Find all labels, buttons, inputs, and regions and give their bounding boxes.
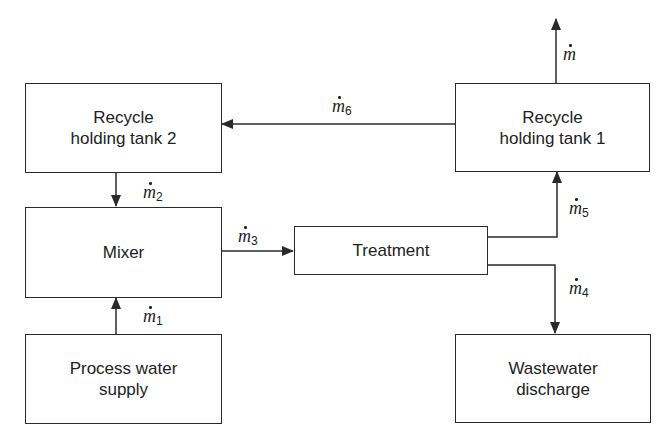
treatment-label: Treatment [353,240,430,261]
mixer-box: Mixer [25,207,222,298]
flow-symbol: m [569,278,582,299]
flow-label-m4: m4 [569,278,589,300]
recycle-holding-tank-2-box: Recycle holding tank 2 [25,83,222,173]
flow-subscript: 3 [251,234,258,248]
recycle-tank-1-label-line1: Recycle [500,107,606,128]
flow-label-m2: m2 [143,182,163,204]
treatment-box: Treatment [294,226,488,275]
process-water-label-line2: supply [70,379,178,400]
flow-arrow-m5 [487,172,557,237]
flow-subscript: 1 [156,314,163,328]
flow-label-m3: m3 [238,226,258,248]
flow-symbol: m [238,226,251,247]
flow-symbol: m [143,182,156,203]
flow-label-m5: m5 [569,198,589,220]
flow-label-m: m [563,44,576,65]
wastewater-label-line1: Wastewater [508,358,597,379]
recycle-tank-2-label-line1: Recycle [71,107,177,128]
recycle-tank-2-label-line2: holding tank 2 [71,128,177,149]
flow-symbol: m [143,306,156,327]
flow-arrow-m4 [487,265,555,333]
flow-subscript: 6 [345,104,352,118]
mixer-label: Mixer [103,242,145,263]
recycle-tank-1-label-line2: holding tank 1 [500,128,606,149]
flow-subscript: 4 [582,286,589,300]
wastewater-discharge-box: Wastewater discharge [455,334,651,423]
wastewater-label-line2: discharge [508,379,597,400]
flow-subscript: 5 [582,206,589,220]
flow-symbol: m [563,44,576,65]
flow-label-m1: m1 [143,306,163,328]
flow-symbol: m [332,96,345,117]
process-water-label-line1: Process water [70,358,178,379]
flow-subscript: 2 [156,190,163,204]
flow-label-m6: m6 [332,96,352,118]
flow-symbol: m [569,198,582,219]
process-water-supply-box: Process water supply [25,334,222,424]
recycle-holding-tank-1-box: Recycle holding tank 1 [455,83,650,172]
